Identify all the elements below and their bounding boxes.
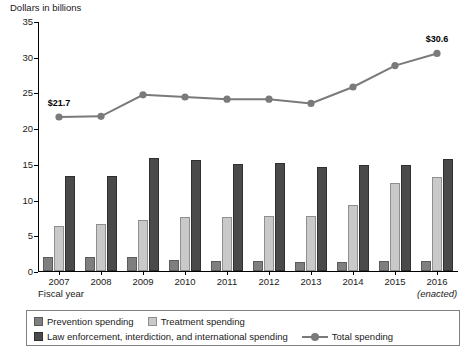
legend-row-1: Prevention spending Treatment spending (34, 314, 452, 329)
x-axis-tick-label: 2011 (207, 276, 247, 287)
bar (233, 164, 244, 271)
bar (317, 167, 328, 271)
bar-group: 2013 (290, 22, 332, 271)
legend-item-total: Total spending (302, 331, 393, 342)
y-axis-tick-label: 25 (22, 89, 33, 99)
data-point-label: $30.6 (426, 34, 449, 44)
legend-label-law-enforcement: Law enforcement, interdiction, and inter… (47, 331, 288, 342)
bar-group: 2015 (374, 22, 416, 271)
bar-group: 2011 (206, 22, 248, 271)
x-axis-tick-mark (143, 271, 144, 275)
bar (107, 176, 118, 271)
bar (348, 205, 359, 271)
bar-group: 2014 (332, 22, 374, 271)
bar-group: 2007 (38, 22, 80, 271)
x-axis-tick-mark (353, 271, 354, 275)
legend-item-law-enforcement: Law enforcement, interdiction, and inter… (34, 331, 288, 342)
x-axis-tick-label: 2007 (39, 276, 79, 287)
bar-group: 2016(enacted) (416, 22, 458, 271)
bar (379, 261, 390, 271)
plot-area: 05101520253035 2007200820092010201120122… (38, 22, 458, 272)
x-axis-tick-mark (227, 271, 228, 275)
bar (253, 261, 264, 271)
bar (275, 163, 286, 271)
bar (169, 260, 180, 271)
bar-group: 2012 (248, 22, 290, 271)
x-axis-tick-mark (185, 271, 186, 275)
bar (180, 217, 191, 271)
x-axis-tick-mark (437, 271, 438, 275)
chart-legend: Prevention spending Treatment spending L… (26, 310, 460, 346)
bar (127, 257, 138, 271)
bar (337, 262, 348, 271)
y-axis-tick-label: 10 (22, 196, 33, 206)
x-axis-tick-label: 2012 (249, 276, 289, 287)
bar (306, 216, 317, 271)
y-axis-tick-label: 15 (22, 160, 33, 170)
x-axis-tick-mark (59, 271, 60, 275)
bar (211, 261, 222, 271)
bar (96, 224, 107, 271)
bar-group: 2008 (80, 22, 122, 271)
y-axis-tick-mark (34, 272, 38, 273)
legend-label-total: Total spending (332, 331, 393, 342)
x-axis-tick-label: 2010 (165, 276, 205, 287)
total-spending-line-icon (302, 332, 328, 341)
legend-label-prevention: Prevention spending (47, 316, 134, 327)
y-axis-tick-label: 35 (22, 17, 33, 27)
bar (443, 159, 454, 271)
x-axis-tick-mark (395, 271, 396, 275)
y-axis-tick-label: 5 (28, 232, 33, 242)
bar (359, 165, 370, 271)
bar (401, 165, 412, 271)
x-axis-tick-mark (311, 271, 312, 275)
bar (390, 183, 401, 271)
chart-container: Dollars in billions 05101520253035 20072… (0, 0, 470, 354)
x-axis-tick-label: 2014 (333, 276, 373, 287)
data-point-label: $21.7 (48, 98, 71, 108)
treatment-swatch-icon (148, 317, 157, 326)
y-axis-title: Dollars in billions (10, 2, 81, 13)
x-axis-tick-mark (269, 271, 270, 275)
legend-item-treatment: Treatment spending (148, 316, 245, 327)
prevention-swatch-icon (34, 317, 43, 326)
bar (149, 158, 160, 271)
legend-label-treatment: Treatment spending (161, 316, 245, 327)
bar (65, 176, 76, 271)
x-axis-tick-label: 2013 (291, 276, 331, 287)
bar-group: 2009 (122, 22, 164, 271)
legend-row-2: Law enforcement, interdiction, and inter… (34, 329, 452, 344)
bar (138, 220, 149, 271)
bar (432, 177, 443, 271)
bar (421, 261, 432, 271)
bar (264, 216, 275, 271)
x-axis-tick-mark (101, 271, 102, 275)
bar (191, 160, 202, 271)
x-axis-tick-label: 2015 (375, 276, 415, 287)
y-axis-tick-label: 30 (22, 53, 33, 63)
bar (43, 257, 54, 271)
y-axis-tick-label: 20 (22, 124, 33, 134)
x-axis-tick-label: 2016(enacted) (417, 276, 457, 299)
x-axis-tick-label: 2008 (81, 276, 121, 287)
x-axis-title: Fiscal year (38, 288, 84, 299)
bar (295, 262, 306, 271)
y-axis-tick-label: 0 (28, 267, 33, 277)
x-axis-tick-label: 2009 (123, 276, 163, 287)
bar-group: 2010 (164, 22, 206, 271)
bar (222, 217, 233, 271)
bar (85, 257, 96, 271)
law-enforcement-swatch-icon (34, 332, 43, 341)
legend-item-prevention: Prevention spending (34, 316, 134, 327)
bar (54, 226, 65, 271)
x-axis-tick-sublabel: (enacted) (417, 288, 457, 299)
